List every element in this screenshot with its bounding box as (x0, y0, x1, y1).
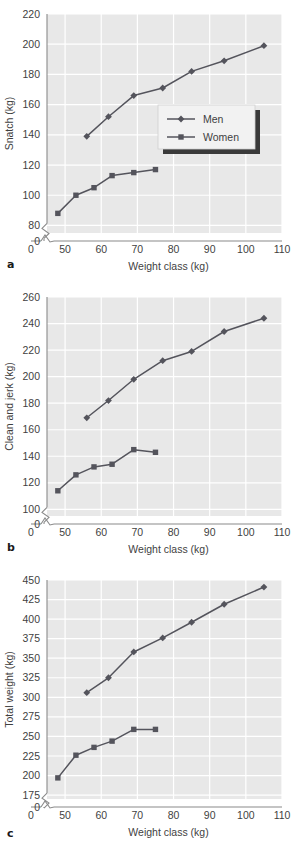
square-marker (91, 464, 96, 469)
chart-panel-a: 0801001201401601802002200506070809010011… (0, 0, 291, 283)
square-marker (131, 170, 136, 175)
square-marker (109, 738, 114, 743)
y-tick-label: 160 (22, 423, 40, 435)
y-tick-label: 240 (22, 317, 40, 329)
x-tick-label: 60 (95, 526, 107, 538)
y-tick-label: 200 (22, 370, 40, 382)
y-tick-label: 180 (22, 68, 40, 80)
panel-tag-b: b (7, 541, 15, 554)
x-axis-title: Weight class (kg) (128, 260, 208, 272)
snatch-chart: 0801001201401601802002200506070809010011… (0, 0, 291, 283)
x-tick-label: 60 (95, 809, 107, 821)
y-tick-label: 300 (22, 691, 40, 703)
y-tick-label: 175 (22, 789, 40, 801)
panel-tag-a: a (7, 258, 14, 271)
chart-panel-b: 0100120140160180200220240260050607080901… (0, 283, 291, 566)
y-tick-label: 100 (22, 503, 40, 515)
y-axis-title: Total weight (kg) (3, 651, 15, 727)
y-tick-label: 0 (34, 801, 40, 813)
total-weight-chart: 0175200225250275300325350375400425450050… (0, 566, 291, 851)
x-tick-label: 50 (59, 243, 71, 255)
x-tick-label: 50 (59, 526, 71, 538)
y-tick-label: 80 (28, 219, 40, 231)
y-tick-label: 180 (22, 397, 40, 409)
square-marker (55, 775, 60, 780)
legend-label-women: Women (203, 131, 239, 143)
y-tick-label: 275 (22, 710, 40, 722)
y-tick-label: 250 (22, 730, 40, 742)
x-tick-label: 80 (168, 243, 180, 255)
x-tick-label: 80 (168, 526, 180, 538)
chart-legend: MenWomen (158, 105, 260, 154)
x-tick-label: 100 (237, 243, 255, 255)
x-tick-label: 0 (28, 526, 34, 538)
x-tick-label: 110 (274, 809, 291, 821)
x-tick-label: 0 (28, 809, 34, 821)
x-tick-label: 60 (95, 243, 107, 255)
x-axis-title: Weight class (kg) (128, 543, 208, 555)
y-tick-label: 160 (22, 98, 40, 110)
y-tick-label: 220 (22, 344, 40, 356)
y-tick-label: 325 (22, 671, 40, 683)
y-tick-label: 350 (22, 652, 40, 664)
x-tick-label: 70 (132, 526, 144, 538)
x-tick-label: 70 (132, 243, 144, 255)
x-tick-label: 0 (28, 243, 34, 255)
y-tick-label: 0 (34, 518, 40, 530)
x-tick-label: 90 (204, 526, 216, 538)
y-tick-label: 425 (22, 593, 40, 605)
square-marker (73, 193, 78, 198)
weightlifting-performance-figure: 0801001201401601802002200506070809010011… (0, 0, 291, 851)
panel-tag-c: c (7, 827, 14, 840)
x-tick-label: 90 (204, 243, 216, 255)
square-marker (73, 753, 78, 758)
square-marker (153, 167, 158, 172)
y-tick-label: 120 (22, 476, 40, 488)
square-marker (91, 745, 96, 750)
y-tick-label: 140 (22, 450, 40, 462)
x-axis-title: Weight class (kg) (128, 826, 208, 838)
square-marker (153, 727, 158, 732)
y-tick-label: 260 (22, 291, 40, 303)
x-tick-label: 70 (132, 809, 144, 821)
legend-label-men: Men (203, 113, 224, 125)
square-marker (178, 134, 183, 139)
square-marker (73, 472, 78, 477)
y-tick-label: 220 (22, 8, 40, 20)
y-axis-title: Clean and jerk (kg) (3, 362, 15, 451)
x-tick-label: 100 (237, 809, 255, 821)
y-tick-label: 120 (22, 159, 40, 171)
square-marker (55, 488, 60, 493)
clean-and-jerk-chart: 0100120140160180200220240260050607080901… (0, 283, 291, 566)
square-marker (91, 185, 96, 190)
x-tick-label: 50 (59, 809, 71, 821)
x-tick-label: 100 (237, 526, 255, 538)
square-marker (153, 450, 158, 455)
y-axis-title: Snatch (kg) (3, 97, 15, 151)
square-marker (55, 211, 60, 216)
y-tick-label: 200 (22, 38, 40, 50)
y-tick-label: 400 (22, 613, 40, 625)
y-tick-label: 140 (22, 128, 40, 140)
y-tick-label: 450 (22, 574, 40, 586)
square-marker (131, 447, 136, 452)
x-tick-label: 90 (204, 809, 216, 821)
y-tick-label: 375 (22, 632, 40, 644)
square-marker (109, 462, 114, 467)
y-tick-label: 200 (22, 769, 40, 781)
y-tick-label: 225 (22, 750, 40, 762)
x-tick-label: 80 (168, 809, 180, 821)
x-tick-label: 110 (274, 526, 291, 538)
square-marker (131, 727, 136, 732)
y-tick-label: 0 (34, 235, 40, 247)
y-tick-label: 100 (22, 189, 40, 201)
square-marker (109, 173, 114, 178)
x-tick-label: 110 (274, 243, 291, 255)
chart-panel-c: 0175200225250275300325350375400425450050… (0, 566, 291, 849)
